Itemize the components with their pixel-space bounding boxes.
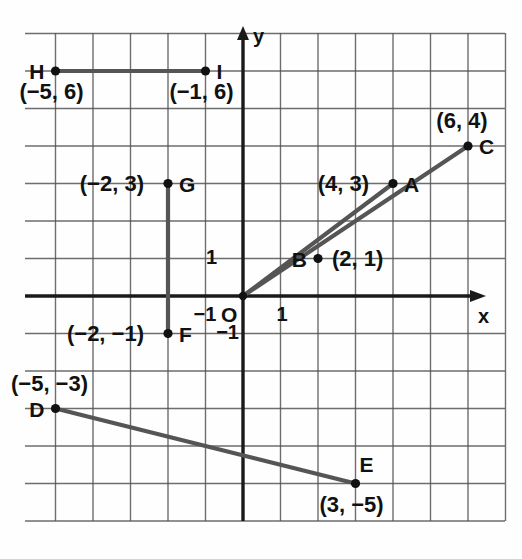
point-b[interactable] xyxy=(313,254,322,263)
point-coord-i: (−1, 6) xyxy=(169,81,233,103)
point-label-c: C xyxy=(479,136,494,157)
point-coord-c: (6, 4) xyxy=(436,110,487,132)
point-label-e: E xyxy=(360,454,374,475)
y-axis-label: y xyxy=(253,26,264,46)
x-tick-label-neg1: −1 xyxy=(194,304,217,324)
point-c[interactable] xyxy=(463,141,472,150)
x-tick-label-1: 1 xyxy=(277,304,288,324)
point-coord-e: (3, −5) xyxy=(319,494,383,516)
point-coord-h: (−5, 6) xyxy=(19,81,83,103)
point-i[interactable] xyxy=(201,66,210,75)
y-tick-label-neg1: −1 xyxy=(216,322,239,342)
x-axis-arrowhead xyxy=(470,290,486,302)
point-e[interactable] xyxy=(351,479,360,488)
point-coord-a: (4, 3) xyxy=(318,173,369,195)
point-f[interactable] xyxy=(163,329,172,338)
y-tick-label-1: 1 xyxy=(206,247,217,267)
point-coord-f: (−2, −1) xyxy=(67,323,144,345)
point-g[interactable] xyxy=(163,179,172,188)
point-coord-g: (−2, 3) xyxy=(80,173,144,195)
point-a[interactable] xyxy=(388,179,397,188)
point-coord-b: (2, 1) xyxy=(332,248,383,270)
x-axis-label: x xyxy=(478,306,489,326)
point-label-a: A xyxy=(404,174,419,195)
point-label-b: B xyxy=(292,249,307,270)
graph-figure: A(4, 3)B(2, 1)C(6, 4)D(−5, −3)E(3, −5)F(… xyxy=(0,0,522,559)
point-coord-d: (−5, −3) xyxy=(11,373,88,395)
point-label-f: F xyxy=(179,324,192,345)
point-label-g: G xyxy=(179,174,195,195)
point-h[interactable] xyxy=(51,66,60,75)
point-label-d: D xyxy=(29,399,44,420)
point-d[interactable] xyxy=(51,404,60,413)
point-origin xyxy=(239,292,247,300)
